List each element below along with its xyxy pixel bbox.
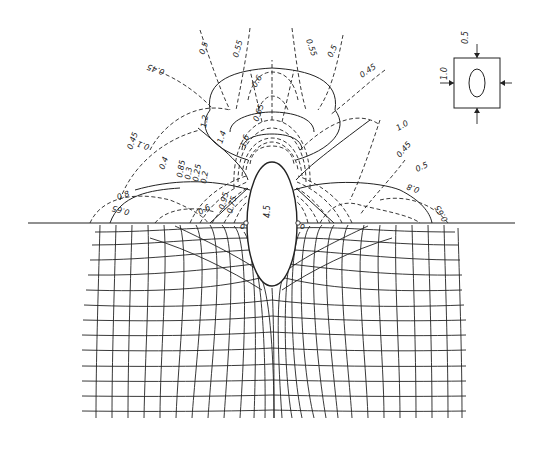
inset-loading-diagram [440, 44, 512, 124]
label-left-a: 0.45 [146, 62, 166, 77]
label-left-c: 0.1 [136, 139, 151, 152]
hole-value-label: 4.5 [263, 205, 272, 218]
point-marker-label-left: o [240, 222, 245, 231]
point-marker-label-right: o [300, 222, 305, 231]
label-top-j: 1.4 [215, 130, 228, 145]
label-top-e: 0.45 [358, 62, 378, 80]
label-top-k: 1.6 [238, 134, 251, 149]
label-right-d: 0.8 [406, 182, 421, 195]
label-right-a: 1.0 [395, 119, 411, 133]
stress-pattern-figure: 4.5 0.5 1.0 0.5 0.55 0.55 0.5 0.45 0.6 0… [0, 0, 542, 449]
label-left-d: 0.4 [157, 156, 170, 171]
label-top-f: 0.6 [250, 73, 264, 89]
inset-top-load-label: 0.5 [461, 31, 470, 44]
label-right-b: 0.45 [395, 140, 413, 159]
label-top-b: 0.55 [231, 39, 244, 59]
label-right-e: 0.65 [433, 204, 450, 224]
label-top-a: 0.5 [197, 41, 210, 56]
label-top-i: 1.2 [199, 114, 210, 128]
label-right-c: 0.5 [414, 160, 429, 174]
inset-side-load-label: 1.0 [440, 67, 449, 80]
label-top-c: 0.55 [304, 38, 319, 58]
label-left-g: 0.6 [197, 203, 213, 217]
figure-canvas: 4.5 0.5 1.0 0.5 0.55 0.55 0.5 0.45 0.6 0… [0, 0, 542, 449]
label-top-d: 0.5 [326, 44, 340, 59]
elliptical-hole [247, 162, 297, 286]
